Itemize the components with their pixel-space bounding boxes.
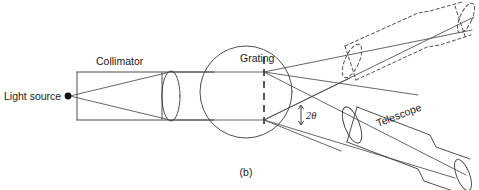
collimator-lens-icon <box>162 71 180 121</box>
telescope-upper-eyepiece-cap-icon <box>454 1 478 35</box>
diffracted-rays-group <box>264 17 474 178</box>
telescope-lower-outline-bottom <box>347 142 456 190</box>
light-source-label: Light source <box>4 90 61 102</box>
ray-source-upper <box>70 72 170 96</box>
ray-source-lower <box>70 96 170 120</box>
light-source-dot <box>65 93 72 100</box>
collimator-label: Collimator <box>96 55 144 67</box>
grating-label: Grating <box>240 52 275 64</box>
ray-upper-a <box>264 30 472 72</box>
optical-diagram: 2θ Light source Collimator Grating <box>0 0 479 190</box>
telescope-upper-eyepiece-seam <box>455 6 466 39</box>
ray-lower-b <box>264 120 455 178</box>
telescope-upper-objective-lens-icon <box>338 42 365 81</box>
angle-label: 2θ <box>306 110 316 121</box>
telescope-upper-group <box>338 1 478 80</box>
telescope-label: Telescope <box>374 101 423 129</box>
figure-caption: (b) <box>240 166 253 178</box>
ray-lower-c <box>264 120 341 151</box>
figure-container: 2θ Light source Collimator Grating <box>0 0 479 190</box>
telescope-upper-outline-top <box>345 2 462 46</box>
telescope-lower-lens-mount <box>347 107 357 142</box>
collimator-group <box>70 71 264 121</box>
angle-annotation-group: 2θ <box>298 105 316 125</box>
